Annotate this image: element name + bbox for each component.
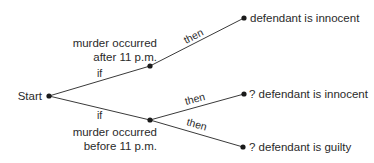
start-node: [46, 93, 51, 98]
maybe-innocent-label: ? defendant is innocent: [249, 88, 369, 100]
edge-label-if-lower: if: [97, 109, 102, 121]
edge-label-if-upper: if: [97, 67, 102, 79]
maybe-guilty-label: ? defendant is guilty: [249, 141, 352, 153]
innocent-node: [241, 15, 246, 20]
before-label-line1: murder occurred: [73, 126, 157, 138]
edge-label-then-top: then: [181, 26, 205, 46]
after-node: [147, 63, 152, 68]
decision-tree-diagram: Start murder occurred after 11 p.m. murd…: [0, 0, 374, 163]
before-node: [147, 117, 152, 122]
after-label-line1: murder occurred: [73, 37, 157, 49]
edge-after-innocent: [150, 18, 244, 66]
maybe-guilty-node: [240, 144, 245, 149]
edge-label-then-mid: then: [183, 90, 206, 107]
innocent-label: defendant is innocent: [250, 12, 360, 24]
after-label-line2: after 11 p.m.: [93, 51, 157, 63]
maybe-innocent-node: [241, 91, 246, 96]
edge-label-then-bottom: then: [185, 115, 208, 132]
diagram-canvas: Start murder occurred after 11 p.m. murd…: [0, 0, 374, 163]
before-label-line2: before 11 p.m.: [84, 140, 157, 152]
start-label: Start: [18, 90, 43, 102]
